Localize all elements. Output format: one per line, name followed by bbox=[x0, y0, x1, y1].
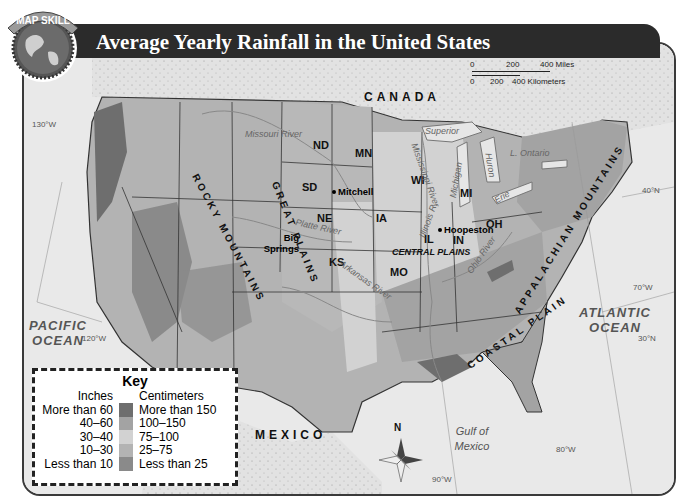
coord-90w: 90°W bbox=[432, 475, 452, 484]
lake-superior: Superior bbox=[425, 126, 459, 136]
state-mi: MI bbox=[460, 187, 472, 199]
region-central-plains: CENTRAL PLAINS bbox=[392, 247, 470, 257]
state-ia: IA bbox=[376, 212, 387, 224]
lake-ontario: L. Ontario bbox=[510, 148, 540, 158]
state-mn: MN bbox=[355, 147, 372, 159]
scale-bar: 0 200 400 Miles 0 200 400 Kilometers bbox=[470, 60, 590, 88]
label-mexico: MEXICO bbox=[255, 428, 326, 442]
key-row: 10–30 25–75 bbox=[35, 444, 235, 458]
key-row: Less than 10 Less than 25 bbox=[35, 457, 235, 471]
coord-80w: 80°W bbox=[556, 445, 576, 454]
key-swatch bbox=[119, 444, 133, 458]
coord-120w: 120°W bbox=[82, 334, 106, 343]
city-hoopeston: Hoopeston bbox=[438, 224, 494, 235]
state-in: IN bbox=[453, 234, 464, 246]
river-missouri: Missouri River bbox=[245, 129, 302, 139]
label-canada: CANADA bbox=[364, 90, 440, 104]
city-dot-icon bbox=[332, 190, 336, 194]
coord-30n: 30°N bbox=[638, 334, 656, 343]
key-row: 30–40 75–100 bbox=[35, 430, 235, 444]
key-header-cm: Centimeters bbox=[133, 389, 204, 403]
compass-north-label: N bbox=[394, 422, 401, 433]
key-row: More than 60 More than 150 bbox=[35, 403, 235, 417]
city-dot-icon bbox=[438, 228, 442, 232]
label-pacific-ocean: PACIFIC OCEAN bbox=[28, 318, 88, 348]
key-swatch bbox=[119, 457, 133, 471]
key-swatch bbox=[119, 417, 133, 431]
state-nd: ND bbox=[313, 139, 329, 151]
key-row: 40–60 100–150 bbox=[35, 417, 235, 431]
coord-130w: 130°W bbox=[32, 120, 56, 129]
map-title: Average Yearly Rainfall in the United St… bbox=[96, 30, 490, 55]
map-skill-globe-icon: MAP SKILL bbox=[2, 2, 84, 84]
label-atlantic-ocean: ATLANTIC OCEAN bbox=[576, 305, 654, 335]
label-gulf-of-mexico: Gulf of Mexico bbox=[448, 424, 496, 454]
coord-40n: 40°N bbox=[642, 186, 660, 195]
key-swatch bbox=[119, 430, 133, 444]
map-key: Key Inches Centimeters More than 60 More… bbox=[32, 368, 238, 486]
svg-text:MAP SKILL: MAP SKILL bbox=[16, 15, 70, 26]
state-sd: SD bbox=[302, 181, 317, 193]
city-mitchell: Mitchell bbox=[332, 186, 373, 197]
state-mo: MO bbox=[390, 266, 408, 278]
key-header-inches: Inches bbox=[35, 389, 119, 403]
key-title: Key bbox=[35, 371, 235, 389]
key-swatch bbox=[119, 403, 133, 417]
coord-70w: 70°W bbox=[633, 283, 653, 292]
